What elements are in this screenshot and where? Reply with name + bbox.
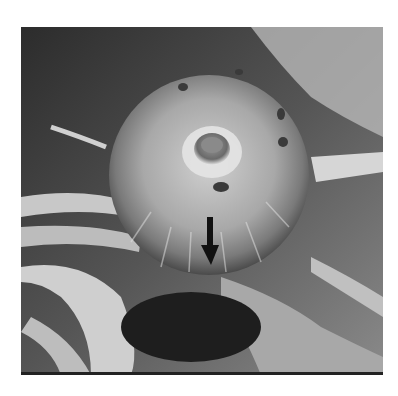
photograph bbox=[21, 27, 383, 375]
flower-photo-illustration bbox=[21, 27, 383, 375]
